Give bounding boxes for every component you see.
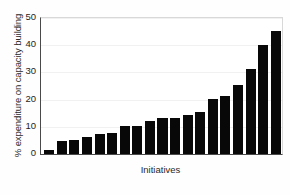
bar-slot (169, 18, 182, 154)
bar (145, 121, 155, 154)
bar-series (41, 18, 282, 154)
bar-slot (219, 18, 232, 154)
bar-slot (93, 18, 106, 154)
bar-slot (106, 18, 119, 154)
bar-slot (56, 18, 69, 154)
bar-chart-figure: % expenditure on capacity building 01020… (0, 0, 290, 195)
bar-slot (181, 18, 194, 154)
bar-slot (144, 18, 157, 154)
bar (258, 45, 268, 154)
y-axis-tick-labels: 01020304050 (18, 12, 36, 158)
y-tick-label: 50 (18, 12, 36, 22)
bar (208, 99, 218, 154)
bar (107, 133, 117, 154)
bar (246, 69, 256, 154)
bar (120, 126, 130, 154)
bar-slot (43, 18, 56, 154)
bar-slot (207, 18, 220, 154)
y-tick-label: 40 (18, 39, 36, 49)
bar-slot (257, 18, 270, 154)
bar (183, 115, 193, 154)
bar (195, 112, 205, 154)
bar (170, 118, 180, 154)
bar (132, 126, 142, 154)
bar (57, 141, 67, 154)
bar (157, 118, 167, 154)
bar (95, 134, 105, 154)
bar-slot (131, 18, 144, 154)
y-tick-label: 0 (18, 148, 36, 158)
y-tick-label: 10 (18, 121, 36, 131)
bar (220, 96, 230, 154)
plot-area (40, 17, 283, 155)
bar-slot (118, 18, 131, 154)
bar-slot (244, 18, 257, 154)
bar-slot (269, 18, 282, 154)
bar-slot (232, 18, 245, 154)
x-axis-title: Initiatives (40, 164, 281, 175)
bar-slot (156, 18, 169, 154)
bar (271, 31, 281, 154)
bar-slot (68, 18, 81, 154)
y-tick-label: 30 (18, 66, 36, 76)
bar (82, 137, 92, 154)
y-tick-label: 20 (18, 94, 36, 104)
bar-slot (81, 18, 94, 154)
bar (44, 150, 54, 154)
bar (69, 140, 79, 154)
bar (233, 85, 243, 154)
bar-slot (194, 18, 207, 154)
